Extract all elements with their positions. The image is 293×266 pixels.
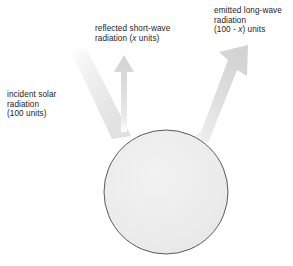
incident-label-line-3: (100 units) [7, 109, 56, 119]
radiation-balance-diagram: incident solar radiation (100 units) ref… [0, 0, 293, 266]
emitted-long-wave-arrow [187, 45, 248, 143]
reflected-label-line-1: reflected short-wave [95, 24, 170, 34]
incident-label-line-2: radiation [7, 100, 56, 110]
reflected-short-wave-radiation-label: reflected short-wave radiation (x units) [95, 24, 170, 43]
reflected-label-line-2-post: units) [137, 34, 160, 43]
emitted-label-line-3-pre: (100 - [214, 25, 238, 34]
emitted-label-line-1: emitted long-wave [214, 6, 282, 16]
incident-solar-radiation-label: incident solar radiation (100 units) [7, 90, 56, 119]
reflected-label-line-2-pre: radiation ( [95, 34, 132, 43]
emitted-long-wave-radiation-label: emitted long-wave radiation (100 - x) un… [214, 6, 282, 35]
incident-label-line-1: incident solar [7, 90, 56, 100]
earth-disc [104, 130, 228, 254]
emitted-label-line-3: (100 - x) units [214, 25, 282, 35]
reflected-label-line-2: radiation (x units) [95, 34, 170, 44]
emitted-label-line-2: radiation [214, 16, 282, 26]
emitted-label-line-3-post: ) units [242, 25, 265, 34]
